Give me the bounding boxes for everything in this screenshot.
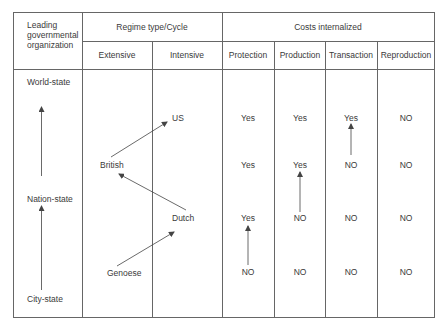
regime-us: US (172, 113, 184, 123)
level-city-state: City-state (27, 294, 63, 304)
arrow-british-to-us (111, 122, 167, 157)
cell-us-production: Yes (293, 113, 307, 123)
header-regime-type: Regime type/Cycle (116, 22, 187, 32)
header-reproduction: Reproduction (381, 50, 432, 60)
header-costs-internalized: Costs internalized (294, 22, 362, 32)
cell-dutch-protection: Yes (241, 213, 255, 223)
header-protection: Protection (229, 50, 267, 60)
cell-us-transaction: Yes (344, 113, 358, 123)
regime-genoese: Genoese (107, 268, 142, 278)
regime-dutch: Dutch (172, 213, 194, 223)
header-leading-line2: governmental (27, 30, 79, 40)
regime-british: British (100, 160, 124, 170)
cell-us-protection: Yes (241, 113, 255, 123)
cell-british-transaction: NO (345, 160, 358, 170)
header-extensive: Extensive (99, 50, 136, 60)
cell-british-protection: Yes (241, 160, 255, 170)
cell-dutch-transaction: NO (345, 213, 358, 223)
cell-dutch-production: NO (294, 213, 307, 223)
cell-british-reproduction: NO (400, 160, 413, 170)
arrow-genoese-to-dutch (117, 232, 174, 266)
cell-genoese-transaction: NO (345, 267, 358, 277)
cell-genoese-production: NO (294, 267, 307, 277)
header-transaction: Transaction (329, 50, 373, 60)
level-world-state: World-state (27, 77, 70, 87)
level-nation-state: Nation-state (27, 194, 73, 204)
cell-dutch-reproduction: NO (400, 213, 413, 223)
cell-us-reproduction: NO (400, 113, 413, 123)
header-leading-line1: Leading (27, 20, 79, 30)
cell-british-production: Yes (293, 160, 307, 170)
header-production: Production (280, 50, 321, 60)
cell-genoese-reproduction: NO (400, 267, 413, 277)
header-leading-org: Leading governmental organization (27, 20, 79, 50)
cell-genoese-protection: NO (242, 267, 255, 277)
header-leading-line3: organization (27, 40, 79, 50)
header-intensive: Intensive (170, 50, 204, 60)
